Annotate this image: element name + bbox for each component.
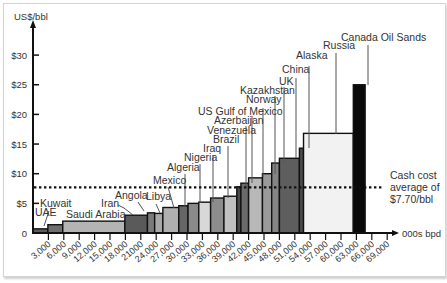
label-saudi-arabia: Saudi Arabia — [66, 208, 126, 220]
reference-label-line: average of — [390, 181, 440, 193]
y-tick-label: $10 — [11, 168, 27, 179]
bar-mexico — [163, 208, 179, 233]
bar-iraq — [199, 202, 211, 233]
reference-label-line: $7.70/bbl — [390, 193, 433, 205]
bar-algeria — [179, 206, 188, 233]
label-uk: UK — [279, 75, 294, 87]
bar-norway — [249, 178, 263, 233]
label-canada-oil-sands: Canada Oil Sands — [341, 31, 426, 43]
label-china: China — [282, 63, 310, 75]
y-tick-label: 0 — [22, 228, 27, 239]
bar-iran — [125, 215, 148, 233]
y-tick-label: $25 — [11, 79, 27, 90]
label-angola: Angola — [115, 189, 148, 201]
cost-curve-chart: UAEKuwaitSaudi ArabiaIranAngolaLibyaMexi… — [0, 0, 447, 283]
label-libya: Libya — [146, 190, 171, 202]
bar-canada-oil-sands — [353, 85, 365, 233]
cash-cost-average-label: Cash costaverage of$7.70/bbl — [390, 169, 440, 205]
leader-libya — [156, 204, 160, 213]
y-tick-label: $30 — [11, 50, 27, 61]
y-tick-label: $20 — [11, 109, 27, 120]
y-tick-label: $5 — [16, 198, 27, 209]
bar-brazil — [211, 198, 224, 233]
bar-saudi-arabia — [63, 221, 125, 233]
bar-russia — [304, 133, 354, 233]
leader-angola — [138, 202, 144, 211]
bar-venezuela — [224, 196, 237, 233]
y-axis-label: US$/bbl — [14, 11, 48, 22]
bar-uk — [272, 163, 280, 233]
x-axis-label: 000s bpd — [402, 228, 441, 239]
reference-label-line: Cash cost — [390, 169, 437, 181]
x-axis-arrow-icon — [392, 230, 399, 236]
y-tick-label: $15 — [11, 139, 27, 150]
label-mexico: Mexico — [153, 174, 186, 186]
bar-libya — [155, 213, 163, 233]
bar-china — [279, 158, 299, 233]
bar-nigeria — [188, 203, 199, 233]
bar-us-gulf-of-mexico — [241, 183, 249, 233]
bar-kazakhstan — [262, 174, 271, 233]
label-us-gulf-of-mexico: US Gulf of Mexico — [198, 105, 283, 117]
bar-angola — [147, 213, 154, 233]
bar-kuwait — [48, 225, 63, 233]
